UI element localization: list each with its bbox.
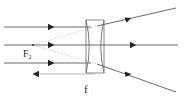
upper-diverged-ray-line <box>97 8 176 26</box>
lower-virtual-backtrace-line <box>33 45 97 64</box>
focal-point-label: F2 <box>23 49 32 60</box>
upper-diverged-ray-arrow-icon <box>125 17 132 22</box>
focal-point-marker <box>32 44 34 46</box>
lower-parallel-ray-arrow-icon <box>48 60 54 66</box>
optical-axis-group <box>4 42 178 48</box>
lens-left-concave-surface <box>86 20 89 73</box>
upper-parallel-ray-arrow-icon <box>48 24 54 30</box>
focal-point-subscript: 2 <box>29 54 32 60</box>
optical-axis-arrow-right-icon <box>130 42 136 48</box>
focal-length-label: f <box>84 84 88 95</box>
refracted-ray-group <box>97 8 176 92</box>
lower-diverged-ray-line <box>97 64 176 92</box>
optical-axis-arrow-left-icon <box>48 42 54 48</box>
optics-diagram: F2 f <box>0 0 184 102</box>
focal-length-marker-arrow-icon <box>33 71 39 77</box>
